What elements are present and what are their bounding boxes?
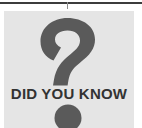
question-mark-icon	[4, 11, 134, 128]
did-you-know-callout-screenshot: DID YOU KNOW	[0, 0, 142, 128]
top-divider-rule	[0, 2, 142, 4]
did-you-know-panel: DID YOU KNOW	[4, 11, 134, 128]
did-you-know-heading: DID YOU KNOW	[4, 86, 134, 101]
divider-tick-mark	[67, 2, 68, 9]
